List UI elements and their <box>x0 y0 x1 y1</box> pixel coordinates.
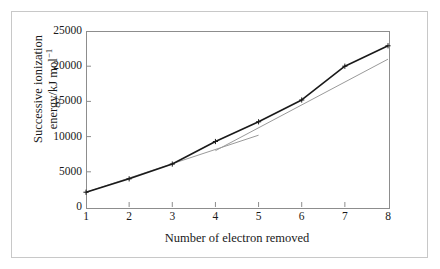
trend-line-upper-annotation <box>215 59 388 151</box>
x-axis-ticks <box>129 202 345 207</box>
y-axis-title-exponent: −1 <box>44 49 54 59</box>
x-tick-label-6: 6 <box>299 211 305 223</box>
x-tick-label-2: 2 <box>126 211 132 223</box>
x-tick-label-8: 8 <box>385 211 391 223</box>
x-axis-tick-label-group: 1 2 3 4 5 6 7 8 <box>0 211 440 231</box>
ionization-energy-line <box>86 46 388 192</box>
y-axis-title-line-1: Successive ionization <box>31 1 46 177</box>
y-axis-title: Successive ionization energy/kJ mol−1 <box>31 1 65 177</box>
x-tick-label-3: 3 <box>169 211 175 223</box>
y-axis-title-line-2: energy/kJ mol−1 <box>46 1 61 177</box>
y-axis-title-units: energy/kJ mol <box>46 58 60 129</box>
x-tick-label-1: 1 <box>83 211 89 223</box>
x-tick-label-7: 7 <box>342 211 348 223</box>
y-axis-ticks <box>86 66 91 172</box>
x-tick-label-5: 5 <box>256 211 262 223</box>
chart-figure: 25000 20000 15000 10000 5000 0 <box>0 0 440 269</box>
x-tick-label-4: 4 <box>213 211 219 223</box>
x-axis-title: Number of electron removed <box>86 231 388 246</box>
ionization-energy-markers <box>83 43 390 195</box>
plot-canvas <box>86 31 388 207</box>
data-point-marker <box>256 119 261 124</box>
